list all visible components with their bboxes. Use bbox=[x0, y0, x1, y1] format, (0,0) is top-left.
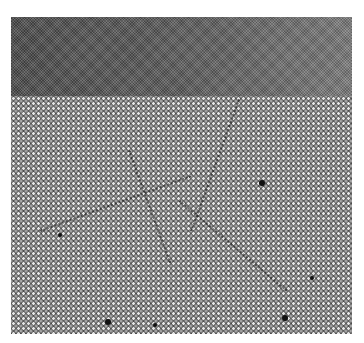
defect-spot bbox=[153, 323, 157, 327]
defect-spot bbox=[58, 233, 62, 237]
caption bbox=[0, 334, 364, 343]
defect-spot bbox=[259, 180, 265, 186]
upper-layer bbox=[11, 17, 352, 96]
defect-spot bbox=[310, 276, 314, 280]
defect-spot bbox=[105, 319, 111, 325]
micrograph-image bbox=[11, 17, 352, 334]
defect-spot bbox=[282, 315, 288, 321]
crystal-lattice bbox=[11, 96, 352, 334]
